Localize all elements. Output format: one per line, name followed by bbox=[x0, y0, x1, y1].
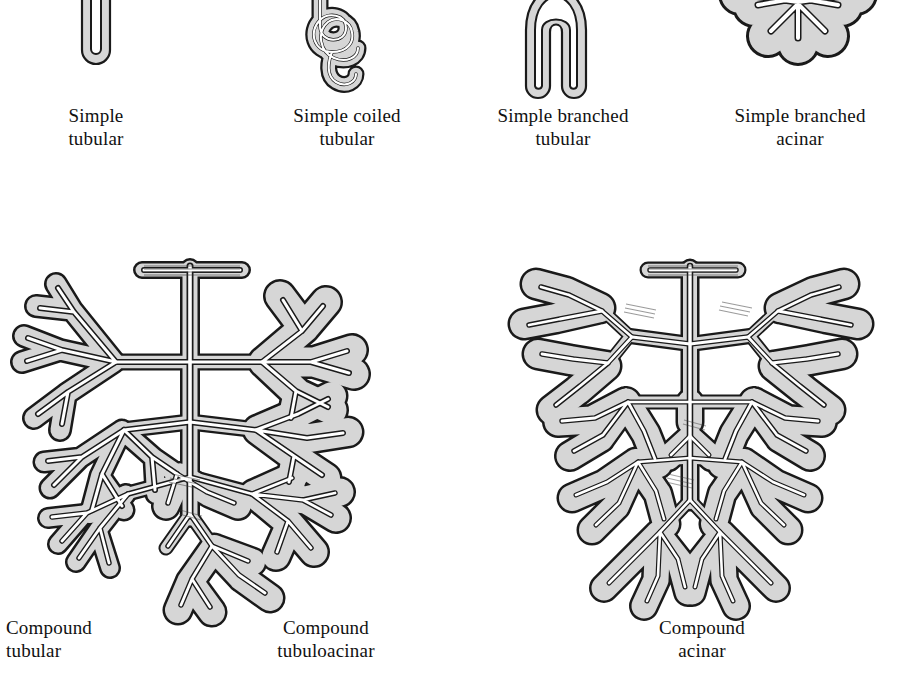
label-compound-acinar: Compoundacinar bbox=[592, 616, 812, 662]
gland-classification-figure: Simpletubular Simple coiledtubular Simpl… bbox=[0, 0, 904, 676]
label-simple-tubular: Simpletubular bbox=[12, 104, 180, 150]
compound-acinar-diagram bbox=[508, 262, 898, 618]
simple-branched-tubular-diagram bbox=[518, 0, 594, 90]
label-simple-branched-acinar: Simple branchedacinar bbox=[697, 104, 903, 150]
label-simple-coiled-tubular: Simple coiledtubular bbox=[246, 104, 448, 150]
label-compound-tubuloacinar: Compoundtubuloacinar bbox=[216, 616, 436, 662]
simple-tubular-diagram bbox=[72, 0, 120, 80]
simple-coiled-tubular-diagram bbox=[288, 0, 380, 90]
compound-tubular-tubuloacinar-diagram bbox=[14, 262, 414, 622]
acinar-wall-mass bbox=[740, 0, 856, 44]
simple-branched-acinar-diagram bbox=[724, 0, 872, 82]
label-compound-tubular: Compoundtubular bbox=[6, 616, 186, 662]
label-simple-branched-tubular: Simple branchedtubular bbox=[460, 104, 666, 150]
